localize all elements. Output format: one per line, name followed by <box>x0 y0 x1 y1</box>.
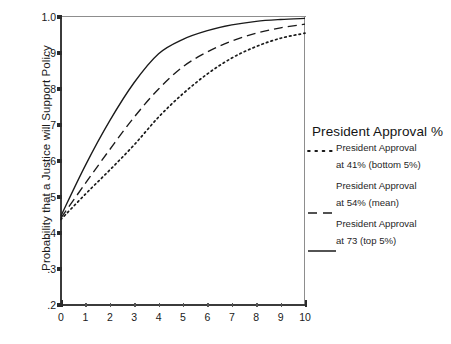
legend-item-label: President Approvalat 73 (top 5%) <box>336 216 451 249</box>
series-line-solid <box>61 18 305 215</box>
legend-label-line2: at 41% (bottom 5%) <box>336 157 451 174</box>
legend-swatch-solid <box>306 242 340 252</box>
legend-label-line1: President Approval <box>336 216 451 233</box>
legend-label-line1: President Approval <box>336 178 451 195</box>
legend-label-line2: at 73 (top 5%) <box>336 233 451 250</box>
legend-label-line2: at 54% (mean) <box>336 195 451 212</box>
legend-item-label: President Approvalat 41% (bottom 5%) <box>336 140 451 173</box>
chart-figure: Probability that a Justice will Support … <box>0 0 451 344</box>
chart-legend: President Approval % President Approvala… <box>312 124 451 254</box>
legend-swatch-dashed <box>306 204 340 214</box>
legend-swatch-dotted <box>306 142 340 152</box>
series-line-dotted <box>61 33 305 219</box>
series-line-dashed <box>61 24 305 218</box>
legend-item: President Approvalat 73 (top 5%) <box>312 216 451 254</box>
legend-label-line1: President Approval <box>336 140 451 157</box>
legend-item: President Approvalat 54% (mean) <box>312 178 451 216</box>
legend-title: President Approval % <box>312 124 451 139</box>
legend-items: President Approvalat 41% (bottom 5%)Pres… <box>312 140 451 254</box>
legend-item: President Approvalat 41% (bottom 5%) <box>312 140 451 178</box>
legend-item-label: President Approvalat 54% (mean) <box>336 178 451 211</box>
